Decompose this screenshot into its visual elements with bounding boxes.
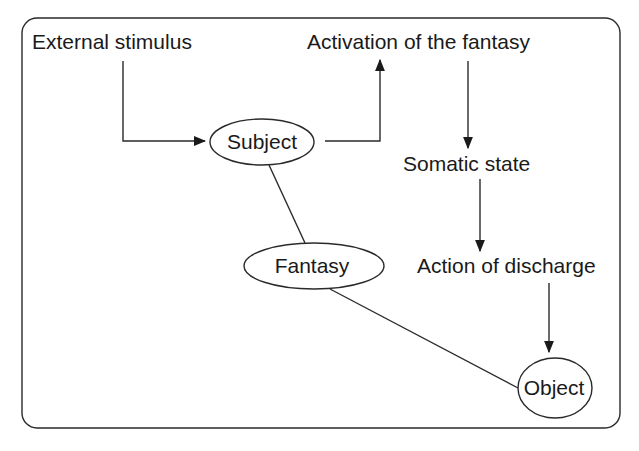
subject-label: Subject <box>227 130 297 153</box>
label-somatic-state: Somatic state <box>403 152 530 175</box>
arrow-subject-to-activation <box>325 60 380 141</box>
line-subject-to-fantasy <box>269 165 305 243</box>
diagram-canvas: External stimulus Activation of the fant… <box>0 0 639 451</box>
label-activation-of-the-fantasy: Activation of the fantasy <box>307 30 530 53</box>
arrow-stimulus-to-subject <box>123 61 205 141</box>
label-external-stimulus: External stimulus <box>32 30 192 53</box>
line-fantasy-to-object <box>330 289 518 388</box>
label-action-of-discharge: Action of discharge <box>417 254 596 277</box>
node-object: Object <box>518 358 592 418</box>
node-subject: Subject <box>210 119 314 165</box>
object-label: Object <box>524 376 585 399</box>
node-fantasy: Fantasy <box>244 243 384 289</box>
fantasy-label: Fantasy <box>275 254 350 277</box>
